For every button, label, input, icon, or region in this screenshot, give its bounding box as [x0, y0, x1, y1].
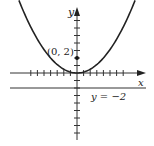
directrix-label: y = −2 — [90, 91, 126, 102]
x-axis-label: x — [138, 77, 144, 88]
y-axis-label: y — [67, 6, 75, 19]
y-axis-arrow-icon — [74, 7, 80, 16]
x-axis-arrow-icon — [137, 70, 146, 76]
focus-label: (0, 2) — [47, 46, 74, 57]
parabola-graph: y x (0, 2) y = −2 — [0, 0, 154, 146]
focus-point — [75, 56, 79, 60]
